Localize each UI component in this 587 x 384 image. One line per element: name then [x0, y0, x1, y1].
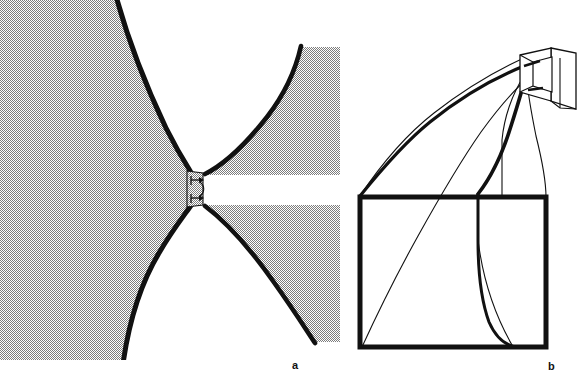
frame-square	[360, 197, 546, 347]
neck-detail-frame	[187, 171, 203, 207]
panel-b	[340, 0, 587, 360]
panel-label-b: b	[548, 361, 555, 372]
figure-caption	[0, 375, 587, 384]
panel-b-graphic	[340, 0, 587, 360]
panel-a	[0, 0, 340, 360]
panel-label-a: a	[292, 360, 298, 371]
left-lobe-region	[0, 0, 192, 360]
endcap-back-plate	[551, 48, 576, 109]
outer-rail-upper	[360, 66, 524, 196]
frame-square-outline	[360, 197, 546, 347]
neck-detail-box	[187, 171, 204, 207]
inner-sweep-curve	[362, 78, 528, 347]
figure-container: a b	[0, 0, 587, 384]
endcap-3d	[520, 48, 576, 109]
panel-a-graphic	[0, 0, 340, 360]
